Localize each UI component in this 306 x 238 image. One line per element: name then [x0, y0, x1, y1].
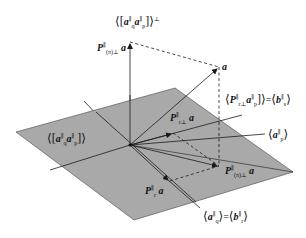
label-proj-r: P∥r a: [145, 185, 163, 198]
label-perp-subspace: ⟨[a∥qa∥p]⟩⊥: [115, 15, 160, 29]
projection-diagram: [0, 0, 306, 238]
subspace-plane: [16, 88, 293, 220]
label-range-pr-ap: ⟨P∥r⊥a∥p]⟩=⟨b∥s⟩: [225, 93, 291, 107]
label-proj-r-perp: P∥r⊥ a: [170, 112, 194, 125]
label-proj-pi: P∥(π)⊥ a: [225, 165, 254, 178]
label-aq-span: ⟨a∥q⟩=⟨b∥r⟩: [203, 210, 248, 224]
label-ap-span: ⟨a∥p⟩: [268, 128, 288, 142]
label-vector-a: a: [222, 62, 227, 72]
label-proj-perp: P∥(π)⊥ a: [97, 42, 126, 55]
dashed-perp-to-a: [130, 42, 219, 67]
origin-point: [129, 144, 132, 147]
label-plane-span: ⟨[a∥qa∥p]⟩: [47, 132, 86, 146]
